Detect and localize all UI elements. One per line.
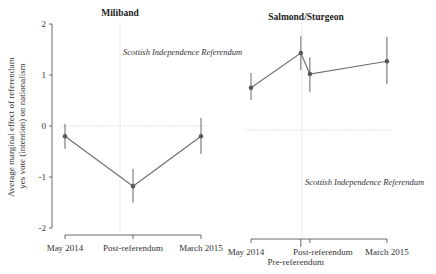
x-tick-label: March 2015: [179, 243, 223, 253]
x-tick-label: May 2014: [228, 247, 265, 257]
x-tick-label: May 2014: [47, 243, 84, 253]
x-tick-label: Pre-referendum: [268, 257, 324, 267]
y-tick-label: 0: [42, 121, 47, 131]
data-point: [131, 184, 135, 188]
annotation-left-referendum: Scottish Independence Referendum: [123, 47, 242, 57]
y-axis-label: Average marginal effect of referendum ye…: [6, 55, 27, 197]
x-tick-label: March 2015: [365, 247, 409, 257]
y-axis: 210-1-2: [39, 19, 53, 233]
data-point: [299, 51, 303, 55]
data-point: [249, 86, 253, 90]
y-tick-label: -2: [39, 223, 47, 233]
y-tick-label: -1: [39, 172, 47, 182]
panel-title-miliband: Miliband: [101, 8, 139, 18]
y-axis-label-line-2: yes vote (intention) on nationalism: [17, 63, 27, 188]
chart-canvas: 210-1-2 Average marginal effect of refer…: [0, 0, 436, 274]
y-tick-label: 2: [42, 19, 47, 29]
panel-salmond-sturgeon: May 2014Pre-referendumPost-referendumMar…: [228, 26, 410, 267]
data-point: [385, 59, 389, 63]
y-tick-label: 1: [42, 70, 47, 80]
data-point: [199, 134, 203, 138]
data-point: [63, 134, 67, 138]
series-line: [251, 53, 387, 88]
annotation-right-referendum: Scottish Independence Referendum: [305, 177, 424, 187]
y-axis-label-line-1: Average marginal effect of referendum: [6, 57, 16, 197]
data-point: [308, 72, 312, 76]
x-tick-label: Post-referendum: [293, 247, 353, 257]
x-tick-label: Post-referendum: [103, 243, 163, 253]
panel-title-salmond-sturgeon: Salmond/Sturgeon: [268, 12, 344, 22]
